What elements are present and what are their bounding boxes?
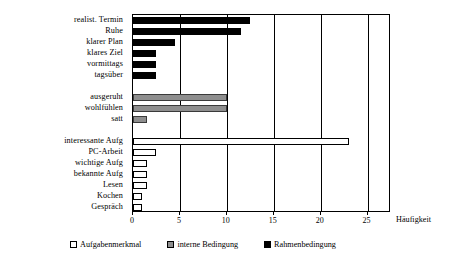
bar xyxy=(133,39,175,47)
category-label: klares Ziel xyxy=(87,48,123,57)
x-axis-tick xyxy=(132,212,133,215)
category-label: tagsüber xyxy=(94,70,123,79)
bar xyxy=(133,138,349,146)
plot-area xyxy=(132,14,390,212)
gridline xyxy=(321,15,322,211)
bar xyxy=(133,160,147,168)
legend-swatch-icon xyxy=(264,241,271,248)
x-axis: 0510152025 xyxy=(132,212,390,232)
category-label: ausgeruht xyxy=(90,92,123,101)
bar xyxy=(133,50,156,58)
legend-entry: Rahmenbedingung xyxy=(264,240,336,249)
legend-swatch-icon xyxy=(70,241,77,248)
x-axis-tick-label: 5 xyxy=(177,216,181,225)
x-axis-tick-label: 25 xyxy=(363,216,371,225)
category-label: Kochen xyxy=(97,191,123,200)
legend-label: interne Bedingung xyxy=(177,240,238,249)
legend-entry: Aufgabenmerkmal xyxy=(70,240,141,249)
bar xyxy=(133,116,147,124)
bar xyxy=(133,94,227,102)
category-label: wichtige Aufg xyxy=(75,158,123,167)
bar xyxy=(133,182,147,190)
x-axis-tick xyxy=(273,212,274,215)
gridline xyxy=(368,15,369,211)
x-axis-tick xyxy=(179,212,180,215)
x-axis-tick-label: 20 xyxy=(316,216,324,225)
bar xyxy=(133,204,142,212)
category-label: vormittags xyxy=(87,59,123,68)
category-label: realist. Termin xyxy=(74,15,123,24)
category-label: bekannte Aufg xyxy=(74,169,123,178)
horizontal-bar-chart: realist. TerminRuheklarer Planklares Zie… xyxy=(0,0,449,261)
category-label: Gespräch xyxy=(91,202,123,211)
legend-swatch-icon xyxy=(167,241,174,248)
category-label: klarer Plan xyxy=(86,37,123,46)
bar xyxy=(133,149,156,157)
bar xyxy=(133,17,250,25)
category-label: satt xyxy=(111,114,123,123)
bar xyxy=(133,72,156,80)
x-axis-tick xyxy=(367,212,368,215)
x-axis-tick-label: 10 xyxy=(222,216,230,225)
category-label: PC-Arbeit xyxy=(88,147,123,156)
bar xyxy=(133,193,142,201)
bar xyxy=(133,105,227,113)
legend-label: Aufgabenmerkmal xyxy=(80,240,141,249)
chart-legend: Aufgabenmerkmalinterne BedingungRahmenbe… xyxy=(70,237,400,251)
x-axis-tick-label: 0 xyxy=(130,216,134,225)
x-axis-title: Häufigkeit xyxy=(396,215,431,224)
gridline xyxy=(274,15,275,211)
bar xyxy=(133,28,241,36)
category-axis-labels: realist. TerminRuheklarer Planklares Zie… xyxy=(0,14,128,212)
category-label: wohlfühlen xyxy=(85,103,123,112)
gridline xyxy=(227,15,228,211)
legend-label: Rahmenbedingung xyxy=(274,240,336,249)
gridline xyxy=(180,15,181,211)
x-axis-tick xyxy=(320,212,321,215)
x-axis-tick xyxy=(226,212,227,215)
bar xyxy=(133,171,147,179)
category-label: Lesen xyxy=(103,180,123,189)
x-axis-tick-label: 15 xyxy=(269,216,277,225)
legend-entry: interne Bedingung xyxy=(167,240,238,249)
bar xyxy=(133,61,156,69)
category-label: Ruhe xyxy=(105,26,123,35)
category-label: interessante Aufg xyxy=(64,136,123,145)
